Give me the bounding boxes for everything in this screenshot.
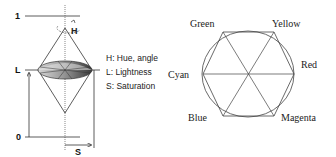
hue-label: H <box>71 26 78 36</box>
hsl-double-cone-model: 1 H L 0 S <box>15 5 158 157</box>
axis-bottom-label: 0 <box>16 132 21 142</box>
axis-top-label: 1 <box>15 11 20 21</box>
vertex-label-blue: Blue <box>188 112 207 123</box>
saturation-axis-label: S <box>75 147 81 157</box>
color-hexagon-diagram: Green Yellow Red Cyan Blue Magenta <box>168 18 317 123</box>
lightness-axis-label: L <box>15 65 21 75</box>
hsl-diagram-canvas: 1 H L 0 S <box>0 0 336 157</box>
hsl-legend: H: Hue, angle L: Lightness S: Saturation <box>106 53 158 91</box>
vertex-label-green: Green <box>190 18 214 29</box>
hue-disk <box>38 61 92 79</box>
vertex-label-red: Red <box>301 59 317 70</box>
vertex-label-cyan: Cyan <box>168 69 189 80</box>
vertex-label-magenta: Magenta <box>281 112 317 123</box>
legend-hue: H: Hue, angle <box>106 53 158 63</box>
vertex-label-yellow: Yellow <box>272 18 301 29</box>
legend-lightness: L: Lightness <box>106 67 152 77</box>
legend-saturation: S: Saturation <box>106 81 155 91</box>
